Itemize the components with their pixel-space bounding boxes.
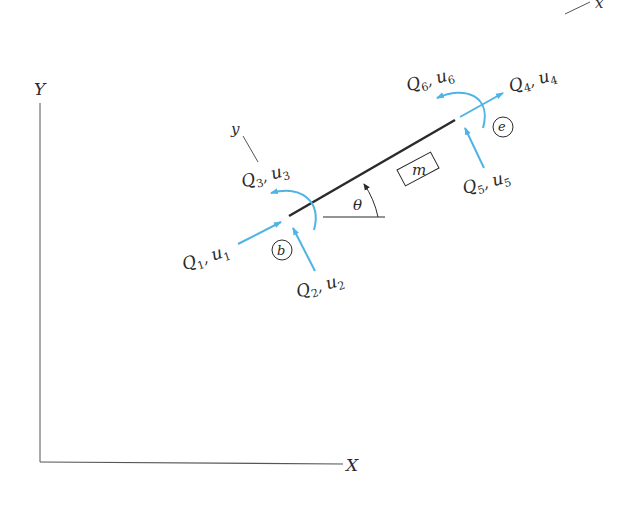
- label-q2-u2: Q2, u2: [294, 269, 347, 304]
- global-axes: Y X: [34, 79, 359, 475]
- node-e-label: e: [498, 119, 506, 134]
- svg-text:Q3, u3: Q3, u3: [239, 159, 292, 194]
- svg-text:Q2, u2: Q2, u2: [294, 269, 347, 304]
- diagram-canvas: Y X y x θ m b e: [0, 0, 644, 520]
- local-x-axis: x: [565, 0, 604, 14]
- label-q4-u4: Q4, u4: [506, 64, 559, 99]
- svg-text:Q1, u1: Q1, u1: [179, 240, 232, 277]
- label-q5-u5: Q5, u5: [460, 166, 513, 201]
- local-y-label: y: [230, 120, 240, 138]
- global-x-axis: [40, 462, 343, 464]
- beam-element-diagram: Y X y x θ m b e: [0, 0, 644, 520]
- global-x-label: X: [344, 455, 359, 475]
- node-b-label: b: [277, 243, 285, 258]
- beam-element: [289, 120, 455, 216]
- svg-text:Q4, u4: Q4, u4: [506, 64, 559, 99]
- local-y-axis: y: [230, 120, 258, 162]
- moment-q6-arrow: [437, 93, 485, 128]
- svg-text:Q5, u5: Q5, u5: [460, 166, 513, 201]
- label-q1-u1: Q1, u1: [179, 240, 232, 277]
- force-q2-arrow: [293, 228, 315, 271]
- global-y-label: Y: [34, 79, 47, 99]
- node-e: e: [493, 117, 513, 137]
- label-q3-u3: Q3, u3: [239, 159, 292, 194]
- theta-label: θ: [353, 196, 362, 214]
- node-b: b: [272, 240, 292, 260]
- force-q5-arrow: [465, 128, 484, 168]
- local-x-label: x: [595, 0, 604, 12]
- angle-theta: θ: [323, 184, 385, 217]
- force-q1-arrow: [238, 222, 281, 244]
- element-label: m: [412, 161, 426, 179]
